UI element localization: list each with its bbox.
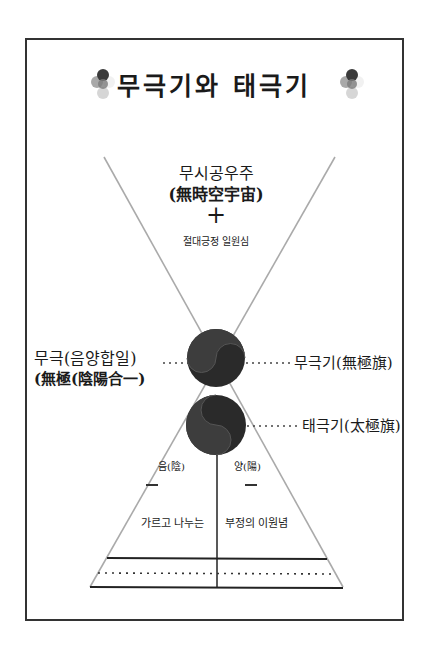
left-label-hanja: (無極(陰陽合一) (34, 367, 145, 388)
dash-right (245, 484, 257, 486)
mugeukgi-label: 무극기(無極旗) (294, 351, 393, 372)
yang-label: 양(陽) (234, 458, 261, 473)
base-line-bottom (90, 587, 343, 588)
plus-sign: + (0, 203, 428, 227)
mugeukgi-circle (187, 329, 245, 387)
taegeukgi-circle (186, 395, 246, 455)
taegeukgi-label: 태극기(太極旗) (302, 414, 401, 435)
yin-label: 음(陰) (158, 458, 185, 473)
bottom-right-text: 부정의 이원념 (225, 514, 289, 530)
bottom-left-text: 가르고 나누는 (141, 514, 205, 530)
page-title: 무극기와 태극기 (0, 66, 428, 102)
base-line-top (107, 558, 327, 559)
dash-left (146, 484, 158, 486)
top-sublabel: 절대긍정 일원심 (0, 233, 428, 248)
left-label-korean: 무극(음양합일) (34, 345, 136, 369)
